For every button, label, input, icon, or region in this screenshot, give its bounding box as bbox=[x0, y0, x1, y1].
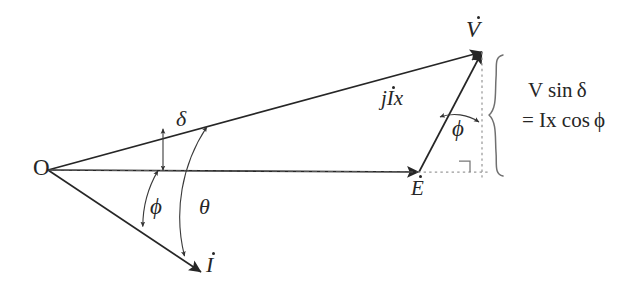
jix-overdot bbox=[392, 86, 395, 89]
phi-left-label: ϕ bbox=[150, 195, 162, 218]
phi-right-label: ϕ bbox=[452, 117, 464, 140]
v-phasor-overdot bbox=[477, 16, 480, 19]
i-phasor-line bbox=[48, 170, 201, 272]
right-angle-marker bbox=[459, 161, 470, 172]
brace-line-2: = Ix cos ϕ bbox=[522, 110, 605, 131]
origin-label: O bbox=[33, 156, 50, 179]
brace-line-1: V sin δ bbox=[528, 80, 587, 101]
v-phasor-line bbox=[48, 52, 482, 170]
jix-label-i: I bbox=[387, 86, 394, 110]
e-phasor-overdot bbox=[419, 175, 422, 178]
v-phasor-label: V bbox=[466, 18, 480, 41]
vsin-delta-brace bbox=[489, 55, 503, 176]
i-phasor-overdot bbox=[212, 252, 215, 255]
theta-label: θ bbox=[199, 196, 210, 218]
phasor-diagram: O V E I jIx δ ϕ θ ϕ V sin δ = Ix cos ϕ bbox=[0, 0, 624, 300]
theta-angle-arc bbox=[180, 127, 207, 256]
e-phasor-label: E bbox=[411, 178, 424, 199]
jix-label-x: x bbox=[394, 86, 403, 110]
jix-phasor-line bbox=[419, 52, 482, 172]
delta-label: δ bbox=[176, 108, 186, 130]
phasor-diagram-canvas bbox=[0, 0, 624, 300]
jix-label: jIx bbox=[381, 88, 403, 109]
i-phasor-label: I bbox=[206, 254, 213, 276]
